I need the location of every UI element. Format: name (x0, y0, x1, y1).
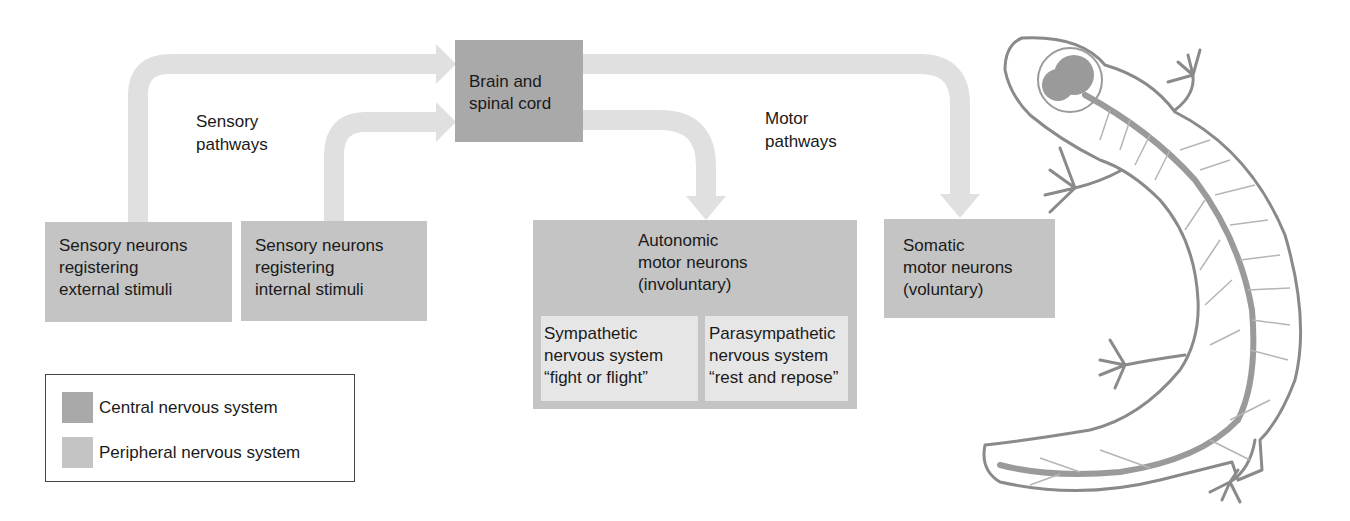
salamander-illustration-icon (0, 0, 1350, 521)
